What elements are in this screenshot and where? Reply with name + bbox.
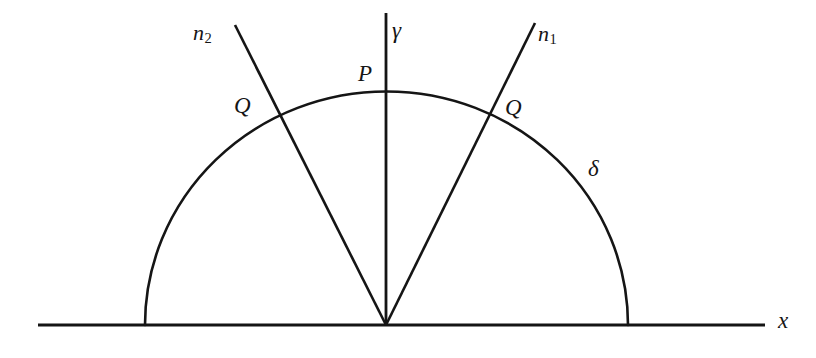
label-axis-x: x bbox=[778, 309, 788, 332]
n1-line bbox=[386, 23, 535, 325]
label-point-p: P bbox=[358, 62, 372, 85]
label-delta: δ bbox=[588, 157, 599, 180]
label-n2-subscript: 2 bbox=[205, 30, 212, 46]
label-point-q-right: Q bbox=[505, 96, 522, 119]
label-n2-base: n bbox=[193, 20, 204, 45]
label-n1-base: n bbox=[538, 21, 549, 46]
label-n2: n2 bbox=[193, 22, 212, 46]
diagram-canvas bbox=[0, 0, 816, 358]
label-gamma: γ bbox=[392, 19, 401, 42]
label-n1-subscript: 1 bbox=[550, 31, 557, 47]
label-n1: n1 bbox=[538, 23, 557, 47]
figure-root: n2 n1 γ P Q Q δ x bbox=[0, 0, 816, 358]
label-point-q-left: Q bbox=[234, 94, 251, 117]
